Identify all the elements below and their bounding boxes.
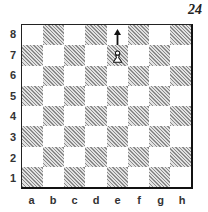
square-b8[interactable]	[43, 25, 64, 45]
square-b6[interactable]	[43, 66, 64, 86]
square-c2[interactable]	[64, 147, 85, 167]
square-b2[interactable]	[43, 147, 64, 167]
file-label-f: f	[129, 194, 150, 206]
rank-label-1: 1	[8, 172, 18, 184]
square-c5[interactable]	[64, 86, 85, 106]
square-b1[interactable]	[43, 167, 64, 187]
square-c3[interactable]	[64, 126, 85, 146]
square-e4[interactable]	[107, 106, 128, 126]
white-pawn-icon[interactable]	[107, 45, 128, 65]
square-e6[interactable]	[107, 66, 128, 86]
square-b3[interactable]	[43, 126, 64, 146]
rank-label-8: 8	[8, 28, 18, 40]
square-h7[interactable]	[170, 45, 191, 65]
rank-label-3: 3	[8, 131, 18, 143]
square-h4[interactable]	[170, 106, 191, 126]
square-a5[interactable]	[22, 86, 43, 106]
square-a4[interactable]	[22, 106, 43, 126]
move-arrow-icon	[107, 25, 128, 45]
square-c7[interactable]	[64, 45, 85, 65]
square-g2[interactable]	[149, 147, 170, 167]
square-d2[interactable]	[85, 147, 106, 167]
square-h1[interactable]	[170, 167, 191, 187]
square-g1[interactable]	[149, 167, 170, 187]
file-label-g: g	[150, 194, 171, 206]
square-h2[interactable]	[170, 147, 191, 167]
square-c4[interactable]	[64, 106, 85, 126]
square-b5[interactable]	[43, 86, 64, 106]
square-c6[interactable]	[64, 66, 85, 86]
square-f3[interactable]	[128, 126, 149, 146]
rank-label-5: 5	[8, 90, 18, 102]
file-label-c: c	[64, 194, 85, 206]
square-h8[interactable]	[170, 25, 191, 45]
square-e3[interactable]	[107, 126, 128, 146]
square-g5[interactable]	[149, 86, 170, 106]
rank-label-2: 2	[8, 152, 18, 164]
file-label-d: d	[86, 194, 107, 206]
diagram-number: 24	[188, 2, 202, 18]
square-a1[interactable]	[22, 167, 43, 187]
file-label-b: b	[43, 194, 64, 206]
square-d8[interactable]	[85, 25, 106, 45]
square-a3[interactable]	[22, 126, 43, 146]
rank-label-4: 4	[8, 110, 18, 122]
chess-board	[21, 24, 193, 189]
square-d3[interactable]	[85, 126, 106, 146]
square-h3[interactable]	[170, 126, 191, 146]
square-g3[interactable]	[149, 126, 170, 146]
square-f2[interactable]	[128, 147, 149, 167]
square-f4[interactable]	[128, 106, 149, 126]
rank-label-7: 7	[8, 49, 18, 61]
square-c1[interactable]	[64, 167, 85, 187]
square-e2[interactable]	[107, 147, 128, 167]
square-f5[interactable]	[128, 86, 149, 106]
file-label-h: h	[172, 194, 193, 206]
square-f1[interactable]	[128, 167, 149, 187]
file-label-a: a	[21, 194, 42, 206]
square-a2[interactable]	[22, 147, 43, 167]
square-c8[interactable]	[64, 25, 85, 45]
square-f6[interactable]	[128, 66, 149, 86]
square-e8[interactable]	[107, 25, 128, 45]
square-e1[interactable]	[107, 167, 128, 187]
square-g7[interactable]	[149, 45, 170, 65]
square-b7[interactable]	[43, 45, 64, 65]
square-d7[interactable]	[85, 45, 106, 65]
square-a7[interactable]	[22, 45, 43, 65]
square-d1[interactable]	[85, 167, 106, 187]
rank-label-6: 6	[8, 69, 18, 81]
square-a6[interactable]	[22, 66, 43, 86]
square-h5[interactable]	[170, 86, 191, 106]
square-d4[interactable]	[85, 106, 106, 126]
square-a8[interactable]	[22, 25, 43, 45]
square-e7[interactable]	[107, 45, 128, 65]
square-f7[interactable]	[128, 45, 149, 65]
square-h6[interactable]	[170, 66, 191, 86]
file-label-e: e	[107, 194, 128, 206]
square-f8[interactable]	[128, 25, 149, 45]
square-d5[interactable]	[85, 86, 106, 106]
square-b4[interactable]	[43, 106, 64, 126]
square-g4[interactable]	[149, 106, 170, 126]
square-d6[interactable]	[85, 66, 106, 86]
square-e5[interactable]	[107, 86, 128, 106]
square-g6[interactable]	[149, 66, 170, 86]
square-g8[interactable]	[149, 25, 170, 45]
